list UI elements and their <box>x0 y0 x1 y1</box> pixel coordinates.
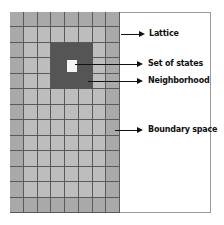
boundary-cell <box>10 89 24 104</box>
label-boundary-space: Boundary space <box>148 125 217 135</box>
lattice-cell <box>24 74 38 89</box>
lattice-cell <box>24 136 38 151</box>
lattice-cell <box>65 136 79 151</box>
lattice-cell <box>24 89 38 104</box>
arrow-set-of-states <box>75 64 141 65</box>
lattice-grid <box>10 12 120 213</box>
lattice-cell <box>93 151 107 166</box>
lattice-cell <box>93 58 107 73</box>
lattice-cell <box>38 89 52 104</box>
lattice-cell <box>38 105 52 120</box>
lattice-cell <box>79 105 93 120</box>
boundary-cell <box>106 182 120 197</box>
boundary-cell <box>106 89 120 104</box>
lattice-cell <box>38 43 52 58</box>
center-cell <box>67 60 77 71</box>
lattice-cell <box>51 105 65 120</box>
boundary-cell <box>106 27 120 42</box>
boundary-cell <box>106 12 120 27</box>
lattice-cell <box>24 58 38 73</box>
boundary-cell <box>93 198 107 213</box>
lattice-cell <box>24 167 38 182</box>
lattice-cell <box>51 27 65 42</box>
lattice-cell <box>38 151 52 166</box>
boundary-cell <box>106 120 120 135</box>
lattice-cell <box>93 105 107 120</box>
label-set-of-states: Set of states <box>148 59 203 69</box>
boundary-cell <box>38 198 52 213</box>
neighborhood-cell <box>51 43 65 58</box>
label-lattice: Lattice <box>149 29 179 39</box>
lattice-cell <box>24 105 38 120</box>
neighborhood-cell <box>51 74 65 89</box>
lattice-cell <box>24 43 38 58</box>
boundary-cell <box>24 12 38 27</box>
boundary-cell <box>106 58 120 73</box>
boundary-cell <box>10 43 24 58</box>
lattice-cell <box>38 182 52 197</box>
lattice-cell <box>93 27 107 42</box>
lattice-cell <box>51 120 65 135</box>
lattice-cell <box>38 27 52 42</box>
arrow-neighborhood <box>88 81 141 82</box>
lattice-cell <box>93 43 107 58</box>
lattice-cell <box>79 182 93 197</box>
boundary-cell <box>38 12 52 27</box>
lattice-cell <box>65 105 79 120</box>
boundary-cell <box>106 136 120 151</box>
lattice-cell <box>51 182 65 197</box>
neighborhood-cell <box>65 58 79 73</box>
lattice-cell <box>51 151 65 166</box>
arrow-boundary-space <box>115 130 141 131</box>
lattice-cell <box>93 182 107 197</box>
boundary-cell <box>10 182 24 197</box>
lattice-cell <box>93 136 107 151</box>
boundary-cell <box>10 105 24 120</box>
lattice-cell <box>38 58 52 73</box>
neighborhood-cell <box>65 43 79 58</box>
lattice-cell <box>51 89 65 104</box>
lattice-cell <box>38 120 52 135</box>
boundary-cell <box>51 198 65 213</box>
lattice-cell <box>79 27 93 42</box>
boundary-cell <box>106 105 120 120</box>
lattice-cell <box>24 120 38 135</box>
boundary-cell <box>10 12 24 27</box>
boundary-cell <box>24 198 38 213</box>
lattice-cell <box>24 27 38 42</box>
boundary-cell <box>10 120 24 135</box>
lattice-cell <box>65 120 79 135</box>
boundary-cell <box>106 167 120 182</box>
lattice-cell <box>65 89 79 104</box>
boundary-cell <box>10 167 24 182</box>
lattice-cell <box>79 136 93 151</box>
lattice-cell <box>38 136 52 151</box>
neighborhood-cell <box>51 58 65 73</box>
boundary-cell <box>106 151 120 166</box>
lattice-cell <box>24 151 38 166</box>
neighborhood-cell <box>79 58 93 73</box>
lattice-cell <box>51 136 65 151</box>
boundary-cell <box>10 27 24 42</box>
boundary-cell <box>106 198 120 213</box>
boundary-cell <box>79 198 93 213</box>
boundary-cell <box>10 58 24 73</box>
lattice-cell <box>51 167 65 182</box>
boundary-cell <box>10 74 24 89</box>
neighborhood-cell <box>79 43 93 58</box>
lattice-cell <box>79 120 93 135</box>
lattice-cell <box>38 74 52 89</box>
boundary-cell <box>10 198 24 213</box>
lattice-cell <box>38 167 52 182</box>
boundary-cell <box>79 12 93 27</box>
lattice-cell <box>93 167 107 182</box>
lattice-cell <box>79 167 93 182</box>
boundary-cell <box>106 43 120 58</box>
neighborhood-cell <box>65 74 79 89</box>
lattice-cell <box>24 182 38 197</box>
lattice-cell <box>79 89 93 104</box>
boundary-cell <box>93 12 107 27</box>
lattice-cell <box>93 120 107 135</box>
lattice-cell <box>79 151 93 166</box>
boundary-cell <box>65 198 79 213</box>
